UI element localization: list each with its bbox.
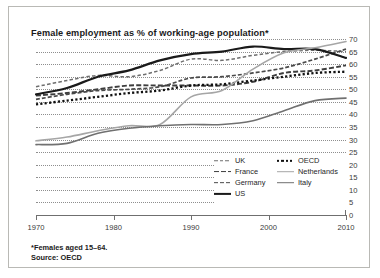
legend-column-1: UKFranceGermanyUS xyxy=(214,155,278,199)
x-axis-tick xyxy=(191,215,192,220)
source-text: Source: OECD xyxy=(31,253,107,263)
footnote-text: *Females aged 15–64. xyxy=(31,243,107,253)
legend-item-uk[interactable]: UK xyxy=(214,155,278,166)
x-axis-tick-label: 1970 xyxy=(28,223,45,232)
x-axis-tick xyxy=(346,215,347,220)
y-axis-tick-label: 40 xyxy=(349,110,367,119)
y-axis-tick-label: 0 xyxy=(349,211,367,220)
x-axis-tick-label: 1980 xyxy=(105,223,122,232)
legend-label: UK xyxy=(235,156,245,165)
y-axis-tick-label: 25 xyxy=(349,148,367,157)
x-axis-tick xyxy=(269,215,270,220)
legend-key-icon xyxy=(214,157,231,164)
chart-footnote: *Females aged 15–64. Source: OECD xyxy=(31,243,107,263)
legend-item-oecd[interactable]: OECD xyxy=(277,155,341,166)
y-axis-tick-label: 70 xyxy=(349,35,367,44)
x-axis-tick-label: 2010 xyxy=(338,223,355,232)
y-axis-tick-label: 60 xyxy=(349,60,367,69)
series-line-us xyxy=(36,46,346,94)
y-axis-tick-label: 50 xyxy=(349,85,367,94)
legend-item-germany[interactable]: Germany xyxy=(214,177,278,188)
y-axis-tick-label: 20 xyxy=(349,160,367,169)
series-line-france xyxy=(36,65,346,95)
legend-label: Germany xyxy=(235,178,265,187)
y-axis-tick-label: 30 xyxy=(349,135,367,144)
legend-item-us[interactable]: US xyxy=(214,188,278,199)
legend-label: US xyxy=(235,189,245,198)
y-axis-tick-label: 10 xyxy=(349,185,367,194)
legend-label: OECD xyxy=(298,156,319,165)
legend-item-netherlands[interactable]: Netherlands xyxy=(277,166,341,177)
y-axis-tick-label: 35 xyxy=(349,123,367,132)
legend-swatch xyxy=(214,171,231,173)
x-axis-tick-label: 1990 xyxy=(183,223,200,232)
chart-legend: UKFranceGermanyUS OECDNetherlandsItaly xyxy=(214,155,346,203)
legend-swatch xyxy=(214,182,231,184)
series-line-oecd xyxy=(36,72,346,105)
y-axis-tick-label: 45 xyxy=(349,97,367,106)
legend-key-icon xyxy=(277,157,294,164)
legend-label: France xyxy=(235,167,258,176)
legend-item-france[interactable]: France xyxy=(214,166,278,177)
y-axis-tick-label: 55 xyxy=(349,72,367,81)
legend-label: Italy xyxy=(298,178,312,187)
chart-title: Female employment as % of working-age po… xyxy=(31,28,269,38)
x-axis-tick xyxy=(114,215,115,220)
legend-swatch xyxy=(277,182,294,184)
y-axis-tick-label: 65 xyxy=(349,47,367,56)
chart-frame: Female employment as % of working-age po… xyxy=(8,6,370,268)
legend-item-italy[interactable]: Italy xyxy=(277,177,341,188)
x-axis-tick xyxy=(36,215,37,220)
legend-key-icon xyxy=(214,179,231,186)
legend-key-icon xyxy=(277,179,294,186)
legend-swatch xyxy=(277,159,294,161)
series-line-italy xyxy=(36,98,346,145)
y-axis-tick-label: 5 xyxy=(349,198,367,207)
legend-swatch xyxy=(214,192,231,194)
x-axis-tick-label: 2000 xyxy=(260,223,277,232)
legend-label: Netherlands xyxy=(298,167,338,176)
legend-key-icon xyxy=(277,168,294,175)
legend-column-2: OECDNetherlandsItaly xyxy=(277,155,341,188)
y-axis-tick-label: 15 xyxy=(349,173,367,182)
legend-key-icon xyxy=(214,168,231,175)
legend-swatch xyxy=(277,171,294,173)
legend-swatch xyxy=(214,160,231,162)
legend-key-icon xyxy=(214,190,231,197)
